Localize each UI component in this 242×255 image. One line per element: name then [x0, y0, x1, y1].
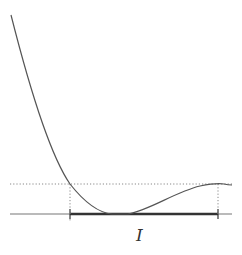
function-graph	[0, 0, 242, 255]
figure-canvas: I	[0, 0, 242, 255]
interval-label: I	[136, 225, 143, 245]
